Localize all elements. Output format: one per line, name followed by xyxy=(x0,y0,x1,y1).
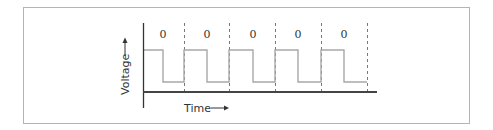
up-arrow-icon xyxy=(123,38,128,44)
right-arrow-icon xyxy=(224,106,229,111)
bit-label: 0 xyxy=(341,28,348,41)
square-wave-signal xyxy=(144,50,367,82)
signal-diagram: 0 0 0 0 0 Time Voltage xyxy=(0,0,493,130)
bit-label: 0 xyxy=(250,28,257,41)
bit-label: 0 xyxy=(204,28,211,41)
x-axis-label: Time xyxy=(183,102,211,115)
y-axis-label: Voltage xyxy=(119,54,132,95)
bit-label: 0 xyxy=(295,28,302,41)
bit-label: 0 xyxy=(160,28,167,41)
